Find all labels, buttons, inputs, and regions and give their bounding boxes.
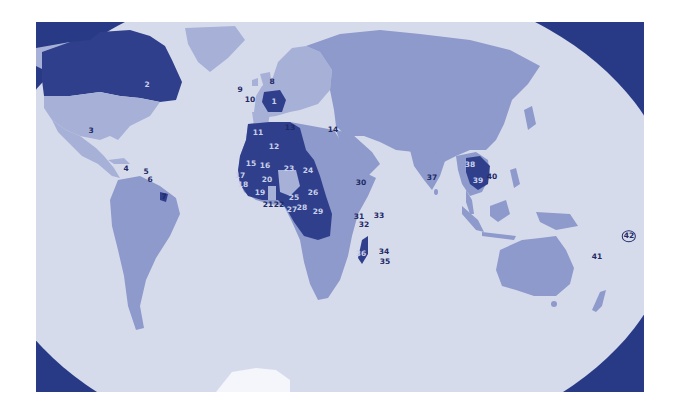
sri-lanka [434,189,438,195]
map-marker-10: 10 [245,96,255,104]
map-marker-34: 34 [379,248,389,256]
map-marker-36: 36 [356,250,366,258]
map-marker-4: 4 [123,165,128,173]
world-map-graphic [36,22,644,392]
map-marker-20: 20 [262,176,272,184]
map-marker-32: 32 [359,221,369,229]
map-marker-2: 2 [144,81,149,89]
frame-corner [36,22,60,30]
map-marker-22: 22 [274,201,284,209]
map-marker-12: 12 [269,143,279,151]
map-marker-28: 28 [297,204,307,212]
map-marker-16: 16 [260,162,270,170]
map-marker-17: 17 [235,172,245,180]
map-marker-18: 18 [238,181,248,189]
map-marker-29: 29 [313,208,323,216]
map-marker-14: 14 [328,126,338,134]
map-marker-24: 24 [303,167,313,175]
map-marker-11: 11 [253,129,263,137]
map-marker-15: 15 [246,160,256,168]
map-marker-1: 1 [271,98,276,106]
map-marker-41: 41 [592,253,602,261]
map-marker-39: 39 [473,177,483,185]
map-marker-13: 13 [285,124,295,132]
map-marker-38: 38 [465,161,475,169]
map-marker-33: 33 [374,212,384,220]
map-marker-7: 7 [161,193,166,201]
map-marker-37: 37 [427,174,437,182]
map-marker-26: 26 [308,189,318,197]
map-marker-25: 25 [289,194,299,202]
tasmania [551,301,557,307]
map-marker-23: 23 [284,165,294,173]
map-marker-19: 19 [255,189,265,197]
map-marker-40: 40 [487,173,497,181]
map-marker-6: 6 [147,176,152,184]
map-marker-30: 30 [356,179,366,187]
map-marker-9: 9 [237,86,242,94]
map-marker-42: 42 [622,230,636,242]
world-map: 1234567891011121314151617181920212223242… [36,22,644,392]
map-marker-27: 27 [287,206,297,214]
map-marker-21: 21 [263,201,273,209]
map-marker-35: 35 [380,258,390,266]
ghana [268,186,276,200]
map-marker-3: 3 [88,127,93,135]
map-marker-8: 8 [269,78,274,86]
